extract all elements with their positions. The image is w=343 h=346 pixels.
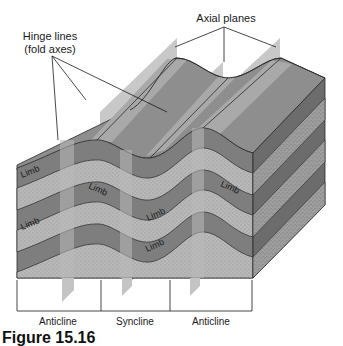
fold-axes-label: (fold axes) xyxy=(24,43,75,55)
fold-type-bracket xyxy=(17,280,252,311)
figure-caption: Figure 15.16 xyxy=(2,330,95,346)
fold-label-anticline-right: Anticline xyxy=(192,316,230,327)
fold-label-anticline-left: Anticline xyxy=(39,316,77,327)
hinge-lines-label: Hinge lines xyxy=(23,30,78,42)
fold-label-syncline: Syncline xyxy=(116,316,154,327)
axial-planes-label: Axial planes xyxy=(196,12,256,24)
axial-plane-stubs xyxy=(62,278,200,302)
